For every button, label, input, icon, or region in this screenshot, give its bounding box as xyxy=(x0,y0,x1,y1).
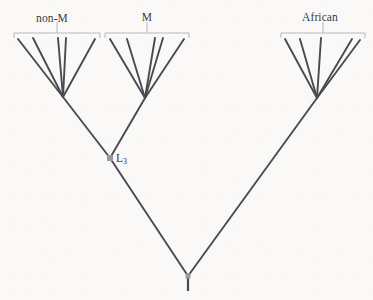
branch-l3-to-m-apex xyxy=(110,98,145,158)
node-label-l3: L3 xyxy=(116,152,127,164)
clade-tip-branches-layer xyxy=(18,38,360,98)
tip-branch-african-5 xyxy=(317,40,360,98)
clade-brackets-layer xyxy=(14,22,365,38)
node-marker-root xyxy=(186,274,191,279)
branch-l3-to-non-m-apex xyxy=(63,97,110,158)
tip-branch-african-1 xyxy=(285,39,317,98)
tip-branch-non-m-5 xyxy=(63,39,95,97)
node-label-l3-subscript: 3 xyxy=(123,157,127,166)
tree-diagram-canvas xyxy=(0,0,373,300)
clade-label-non-m: non-M xyxy=(36,12,68,24)
tree-branches-layer xyxy=(63,97,317,291)
branch-root-to-african-apex xyxy=(188,98,317,276)
tip-branch-m-1 xyxy=(110,39,145,98)
tip-branch-african-4 xyxy=(317,39,352,98)
node-marker-l3 xyxy=(107,155,113,161)
tip-branch-african-2 xyxy=(300,39,317,98)
branch-root-to-l3 xyxy=(110,158,188,276)
phylogenetic-tree-figure: non-M M African L3 xyxy=(0,0,373,300)
tip-branch-m-2 xyxy=(127,39,145,98)
clade-label-m: M xyxy=(142,11,152,23)
node-label-l3-base: L xyxy=(116,152,123,164)
tip-branch-african-3 xyxy=(317,38,321,98)
tip-branch-non-m-4 xyxy=(63,38,66,97)
clade-label-african: African xyxy=(302,11,338,23)
tip-branch-non-m-1 xyxy=(18,39,63,97)
